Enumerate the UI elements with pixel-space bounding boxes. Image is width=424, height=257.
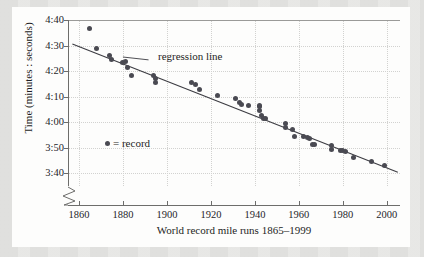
- data-point: [94, 46, 99, 51]
- data-point: [343, 149, 348, 154]
- data-point: [125, 65, 130, 70]
- data-point: [129, 73, 134, 78]
- chart-page: Time (minutes : seconds) 4:404:304:204:1…: [0, 0, 424, 257]
- data-point: [382, 163, 387, 168]
- data-point: [292, 134, 297, 139]
- record-marker-icon: [105, 141, 110, 146]
- data-point: [123, 59, 128, 64]
- data-point: [283, 125, 288, 130]
- y-axis-break-zigzag: [63, 187, 75, 205]
- regression-line-annotation: regression line: [158, 50, 222, 62]
- chart-vector-overlay: [0, 0, 424, 257]
- data-point: [351, 155, 356, 160]
- x-axis-title: World record mile runs 1865–1999: [68, 224, 400, 236]
- legend-label: = record: [113, 137, 150, 149]
- data-point: [290, 127, 295, 132]
- legend: = record: [105, 137, 150, 149]
